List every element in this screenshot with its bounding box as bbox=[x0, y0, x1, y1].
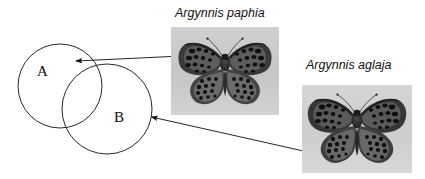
argynnis-aglaja-photo bbox=[302, 85, 412, 173]
arrow-aglaja-to-b bbox=[152, 117, 309, 152]
species-caption-aglaja: Argynnis aglaja bbox=[306, 59, 391, 72]
venn-butterfly-figure: A B Argynnis paphia bbox=[0, 0, 425, 179]
venn-label-a: A bbox=[37, 64, 48, 79]
venn-circle-a bbox=[18, 44, 102, 128]
venn-circle-b bbox=[62, 64, 152, 154]
species-caption-paphia: Argynnis paphia bbox=[175, 7, 265, 20]
argynnis-paphia-photo bbox=[171, 27, 279, 115]
venn-label-b: B bbox=[114, 110, 124, 125]
